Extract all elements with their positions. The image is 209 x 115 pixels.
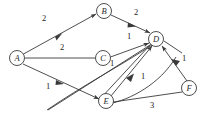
- edge-a-e: [23, 64, 99, 99]
- edge-e-f: [113, 92, 182, 102]
- edge-e-d-midarrow: [126, 74, 134, 83]
- node-a[interactable]: A: [10, 51, 25, 66]
- node-e-label: E: [102, 96, 109, 106]
- node-f[interactable]: F: [182, 81, 197, 96]
- node-group: A B C D E F: [10, 4, 197, 109]
- edge-weight-e-f: 3: [150, 100, 154, 110]
- node-c[interactable]: C: [96, 51, 111, 66]
- edge-weight-a-b: 2: [42, 13, 46, 23]
- edge-weight-a-c: 2: [60, 42, 64, 52]
- node-b[interactable]: B: [97, 4, 112, 19]
- node-c-label: C: [100, 53, 106, 63]
- edge-weight-b-d: 2: [134, 7, 138, 17]
- node-b-label: B: [101, 6, 106, 16]
- edge-weight-a-e: 1: [46, 81, 50, 91]
- edge-weight-f-d: 1: [182, 53, 186, 63]
- edge-weight-c-e: 1: [110, 58, 114, 68]
- edge-b-d-midarrow: [128, 23, 137, 28]
- graph-diagram: A B C D E F 2: [0, 0, 209, 115]
- node-e[interactable]: E: [99, 94, 114, 109]
- node-f-label: F: [185, 83, 192, 93]
- node-d-label: D: [152, 34, 160, 44]
- edge-c-d: [111, 43, 150, 57]
- edge-weight-c-d: 1: [127, 31, 131, 41]
- graph-canvas: A B C D E F 2: [0, 0, 209, 115]
- edge-d-tick: [164, 41, 182, 53]
- node-a-label: A: [13, 53, 20, 63]
- node-d[interactable]: D: [149, 32, 164, 47]
- edge-weight-e-d: 1: [141, 71, 145, 81]
